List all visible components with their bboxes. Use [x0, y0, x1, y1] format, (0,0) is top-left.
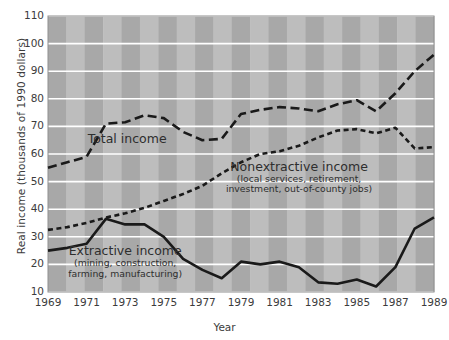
annotation-title: Nonextractive income [226, 160, 372, 174]
annotation-extractive-income: Extractive income(mining, construction,f… [68, 244, 182, 279]
annotation-subtitle-2: investment, out-of-county jobs) [226, 184, 372, 194]
annotation-subtitle-1: (mining, construction, [68, 258, 182, 268]
annotation-nonextractive-income: Nonextractive income(local services, ret… [226, 160, 372, 195]
annotation-subtitle-2: farming, manufacturing) [68, 269, 182, 279]
plot-area [0, 0, 449, 340]
annotation-title: Extractive income [68, 244, 182, 258]
income-line-chart-figure: Real income (thousands of 1990 dollars) … [0, 0, 449, 340]
annotation-title: Total income [88, 132, 167, 146]
annotation-total-income: Total income [88, 132, 167, 146]
